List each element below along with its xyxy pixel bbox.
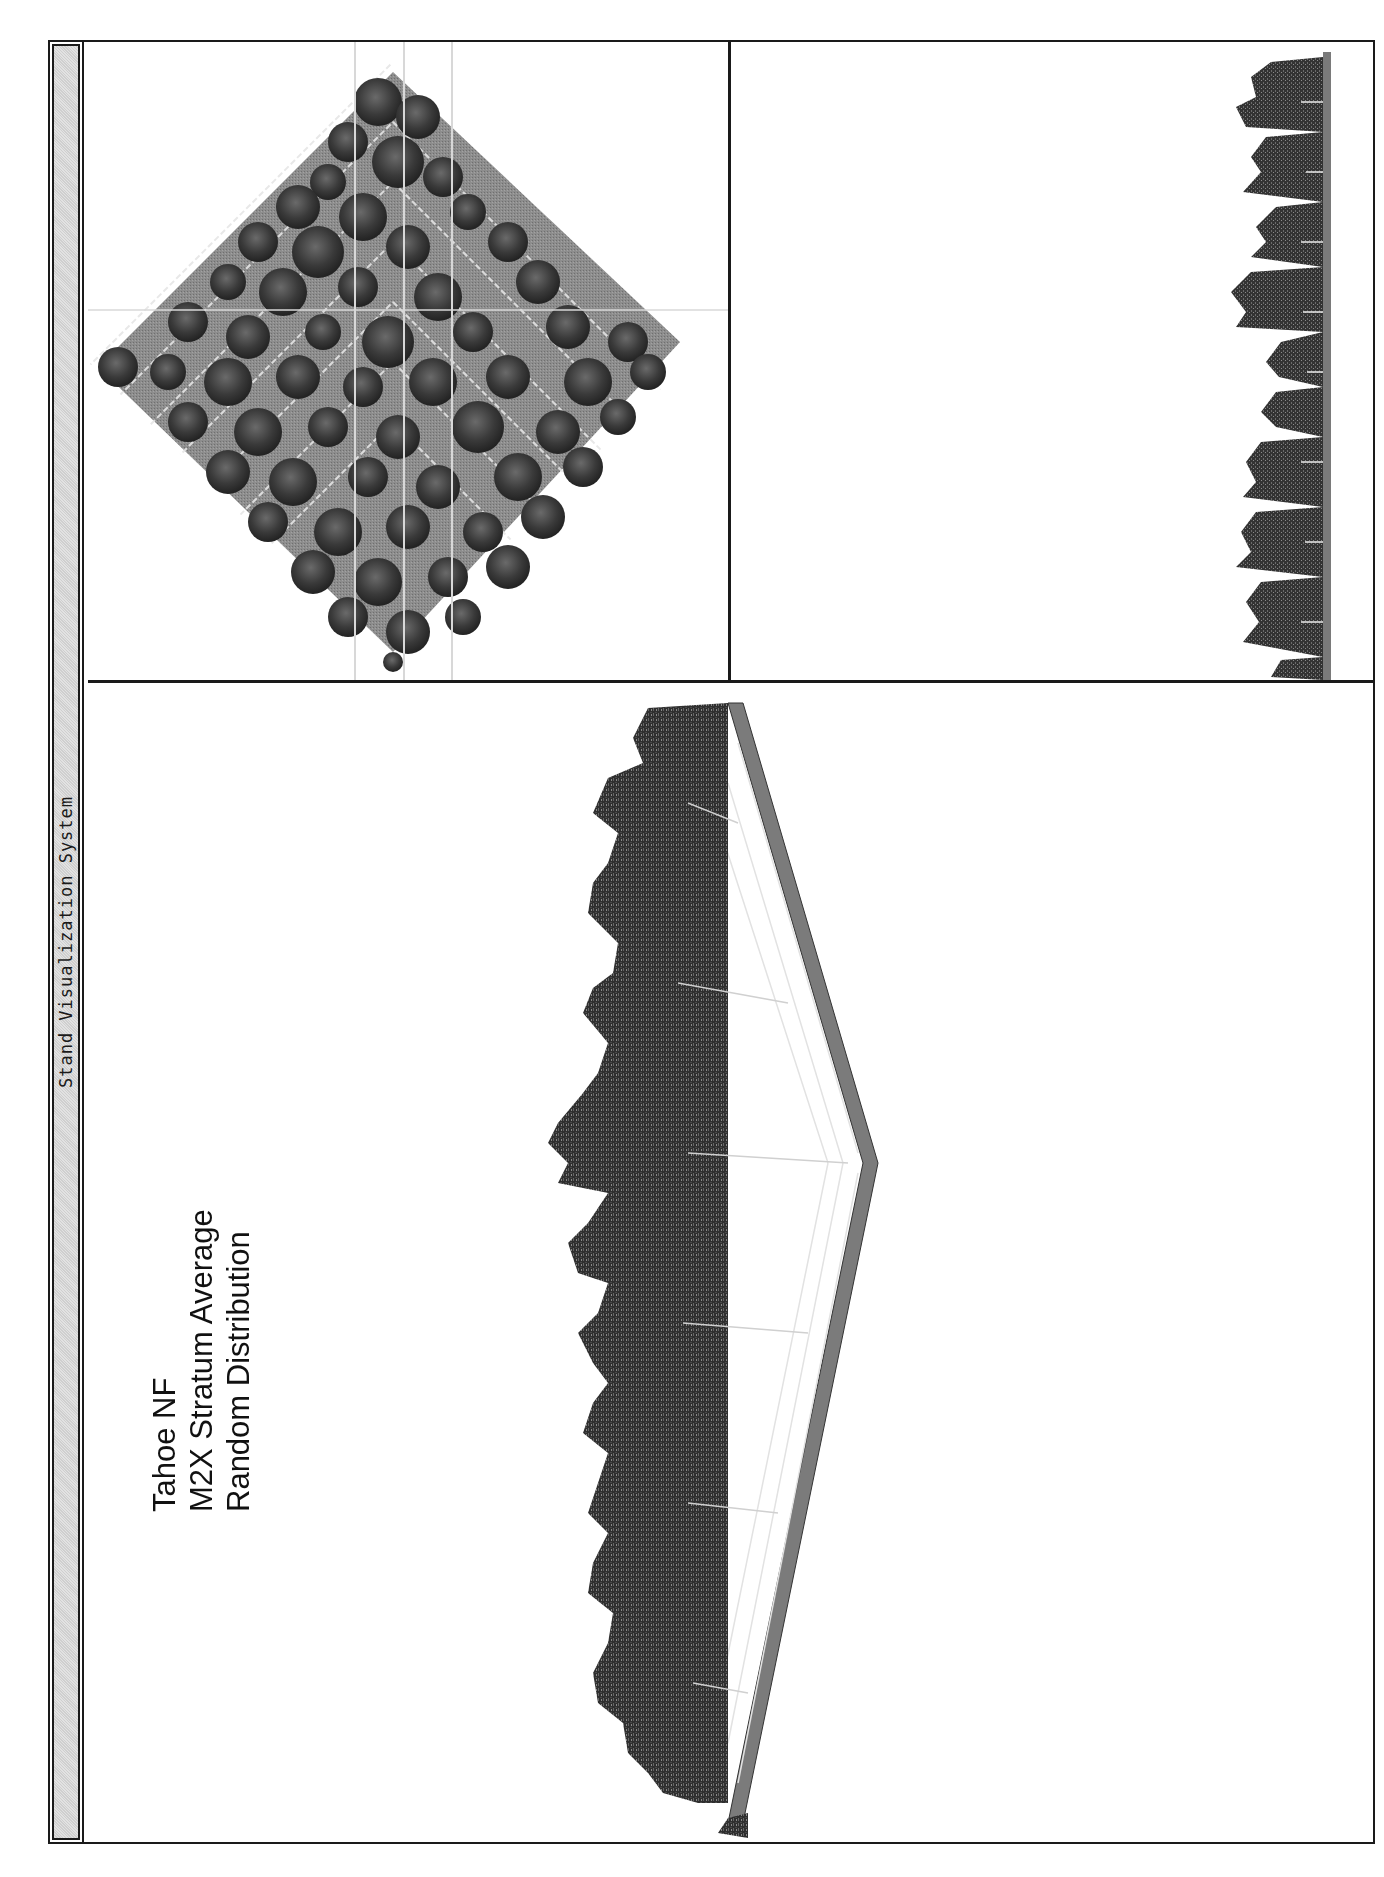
forest-mass (548, 703, 728, 1803)
profile-view-panel[interactable] (731, 42, 1373, 680)
stratum-label: M2X Stratum Average (183, 1132, 220, 1512)
title-bar-divider (82, 42, 84, 1842)
overhead-view-panel[interactable] (88, 42, 728, 680)
profile-ground (1323, 52, 1331, 680)
perspective-view-panel[interactable]: Tahoe NF M2X Stratum Average Random Dist… (88, 683, 1373, 1842)
outlier-tree (718, 1813, 748, 1838)
title-bar[interactable]: Stand Visualization System (52, 44, 80, 1840)
stand-labels: Tahoe NF M2X Stratum Average Random Dist… (146, 1132, 286, 1512)
profile-view-canvas (731, 42, 1373, 680)
overhead-view-canvas (88, 42, 728, 680)
perspective-ground (728, 703, 878, 1823)
profile-trees (1231, 57, 1323, 680)
forest-name-label: Tahoe NF (146, 1132, 183, 1512)
app-window: Stand Visualization System (48, 40, 1375, 1844)
distribution-label: Random Distribution (220, 1132, 257, 1512)
viewport-area: Tahoe NF M2X Stratum Average Random Dist… (88, 42, 1373, 1842)
window-title: Stand Visualization System (56, 796, 76, 1088)
